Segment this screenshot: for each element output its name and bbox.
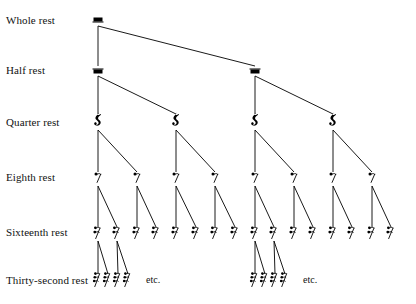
- tree-edge: [137, 186, 156, 227]
- tree-edge: [255, 130, 294, 172]
- eighth-rest: [94, 172, 102, 184]
- tree-edge: [274, 241, 275, 274]
- tree-edge: [176, 186, 196, 227]
- tree-edge: [98, 130, 137, 172]
- quarter-rest: [329, 112, 338, 132]
- sixteenth-rest: [94, 226, 103, 240]
- eighth-rest: [329, 172, 337, 184]
- sixteenth-rest: [309, 226, 318, 240]
- tree-edge: [274, 241, 285, 274]
- half-rest: [250, 68, 261, 75]
- tree-edge: [372, 186, 391, 227]
- row-label-sixteenth: Sixteenth rest: [6, 227, 68, 238]
- sixteenth-rest: [192, 226, 201, 240]
- tree-edge: [255, 76, 333, 114]
- row-label-quarter: Quarter rest: [6, 117, 59, 128]
- tree-edge: [333, 130, 372, 172]
- quarter-rest: [94, 112, 103, 132]
- sixteenth-rest: [211, 226, 220, 240]
- tree-connector-lines: [0, 0, 416, 304]
- row-label-thirtysecond: Thirty-second rest: [6, 275, 88, 286]
- sixteenth-rest: [251, 226, 260, 240]
- tree-edge: [215, 186, 235, 227]
- thirtysecond-rest: [250, 272, 260, 288]
- tree-edge: [333, 186, 352, 227]
- thirtysecond-rest: [280, 272, 290, 288]
- row-label-eighth: Eighth rest: [6, 172, 55, 183]
- eighth-rest: [251, 172, 259, 184]
- tree-edge: [98, 26, 255, 66]
- sixteenth-rest: [329, 226, 338, 240]
- thirtysecond-rest: [123, 272, 133, 288]
- eighth-rest: [290, 172, 298, 184]
- sixteenth-rest: [231, 226, 240, 240]
- etc-label: etc.: [303, 275, 317, 285]
- thirtysecond-rest: [103, 272, 113, 288]
- sixteenth-rest: [113, 226, 122, 240]
- eighth-rest: [133, 172, 141, 184]
- tree-edge: [255, 241, 265, 274]
- sixteenth-rest: [152, 226, 161, 240]
- quarter-rest: [172, 112, 181, 132]
- quarter-rest: [251, 112, 260, 132]
- eighth-rest: [368, 172, 376, 184]
- tree-edge: [294, 186, 313, 227]
- thirtysecond-rest: [260, 272, 270, 288]
- thirtysecond-rest: [113, 272, 123, 288]
- etc-label: etc.: [146, 275, 160, 285]
- row-label-whole: Whole rest: [6, 15, 55, 26]
- half-rest: [93, 68, 104, 75]
- sixteenth-rest: [133, 226, 142, 240]
- eighth-rest: [172, 172, 180, 184]
- tree-edge: [98, 76, 176, 114]
- thirtysecond-rest: [93, 272, 103, 288]
- sixteenth-rest: [270, 226, 279, 240]
- tree-edge: [117, 241, 128, 274]
- sixteenth-rest: [348, 226, 357, 240]
- sixteenth-rest: [172, 226, 181, 240]
- sixteenth-rest: [368, 226, 377, 240]
- tree-edge: [98, 241, 108, 274]
- tree-edge: [117, 241, 118, 274]
- tree-edge: [98, 186, 117, 227]
- tree-edge: [176, 130, 215, 172]
- tree-edge: [255, 186, 274, 227]
- whole-rest: [93, 18, 104, 25]
- rest-values-tree-diagram: Whole restHalf restQuarter restEighth re…: [0, 0, 416, 304]
- row-label-half: Half rest: [6, 65, 45, 76]
- thirtysecond-rest: [270, 272, 280, 288]
- sixteenth-rest: [387, 226, 396, 240]
- eighth-rest: [211, 172, 219, 184]
- sixteenth-rest: [290, 226, 299, 240]
